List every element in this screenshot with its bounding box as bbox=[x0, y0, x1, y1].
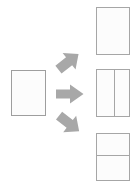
arrow-down-right-icon bbox=[55, 111, 83, 137]
result-page-two-rows[interactable] bbox=[96, 133, 130, 181]
result-page-single[interactable] bbox=[96, 7, 130, 55]
arrow-up-right-icon bbox=[55, 49, 83, 75]
page-layout-split-diagram bbox=[0, 0, 138, 187]
column-divider-line bbox=[114, 70, 115, 116]
source-page[interactable] bbox=[11, 70, 46, 116]
arrow-right-icon bbox=[55, 83, 85, 105]
source-page-surface bbox=[12, 71, 45, 115]
result-page-two-columns[interactable] bbox=[96, 69, 130, 117]
result-page-two-rows-surface bbox=[97, 134, 129, 180]
row-divider-line bbox=[97, 155, 129, 156]
result-page-single-surface bbox=[97, 8, 129, 54]
